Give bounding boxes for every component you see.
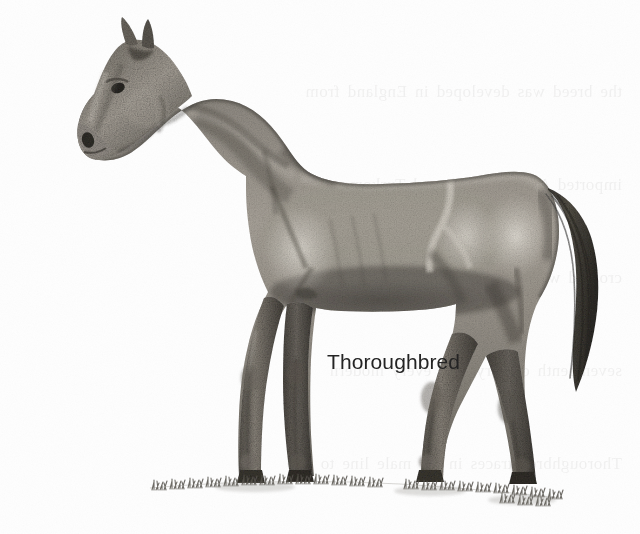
ground-grass	[150, 474, 563, 506]
hock-far	[498, 392, 520, 424]
horse-body	[0, 0, 640, 534]
ear-near	[121, 17, 138, 46]
horse-head	[77, 17, 192, 160]
knee-far	[287, 362, 305, 386]
breed-caption-label: Thoroughbred	[327, 350, 460, 374]
illustration-page: the breed was developed in England from …	[0, 0, 640, 534]
horse-illustration	[0, 0, 640, 534]
hoof-hind-far	[509, 472, 537, 484]
hoof-hind-near	[416, 470, 444, 482]
rump-highlight	[482, 196, 550, 276]
hock-near	[421, 382, 443, 414]
ear-far	[142, 19, 154, 48]
knee-near	[241, 365, 261, 391]
horse-drawing-svg	[0, 0, 640, 534]
fetlocks	[240, 454, 530, 474]
